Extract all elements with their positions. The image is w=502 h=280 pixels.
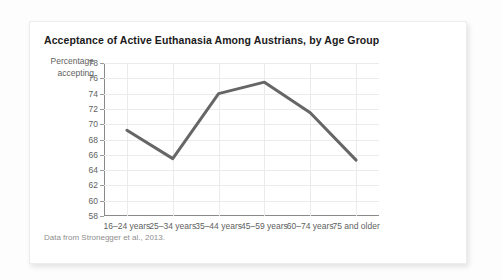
y-tick-label: 72: [89, 104, 98, 114]
x-tick-label: 35–44 years: [195, 221, 242, 231]
y-tick-label: 76: [89, 73, 98, 83]
plot-area: 5860626466687072747678 16–24 years25–34 …: [104, 63, 379, 216]
y-tick-label: 70: [89, 119, 98, 129]
x-tick-label: 16–24 years: [104, 221, 151, 231]
chart-title: Acceptance of Active Euthanasia Among Au…: [44, 34, 379, 46]
series-polyline: [127, 82, 356, 160]
x-tick-label: 45–59 years: [241, 221, 288, 231]
x-tick-label: 25–34 years: [149, 221, 196, 231]
y-tick-label: 60: [89, 196, 98, 206]
x-tick-label: 60–74 years: [287, 221, 334, 231]
y-tick-label: 66: [89, 150, 98, 160]
y-axis-title-line1: Percentage: [36, 55, 94, 67]
line-series: [104, 63, 379, 216]
x-tick-label: 75 and older: [332, 221, 379, 231]
y-tick-label: 62: [89, 180, 98, 190]
y-tick-label: 58: [89, 211, 98, 221]
screenshot-root: Acceptance of Active Euthanasia Among Au…: [0, 0, 502, 280]
y-tick-label: 74: [89, 89, 98, 99]
y-axis-title: Percentage accepting: [36, 55, 94, 79]
y-tick-label: 64: [89, 165, 98, 175]
y-axis-title-line2: accepting: [36, 67, 94, 79]
chart-card: Acceptance of Active Euthanasia Among Au…: [29, 21, 467, 264]
y-tick-label: 78: [89, 58, 98, 68]
y-tick-label: 68: [89, 135, 98, 145]
source-note: Data from Stronegger et al., 2013.: [44, 233, 165, 242]
y-tick-mark: [100, 216, 104, 217]
